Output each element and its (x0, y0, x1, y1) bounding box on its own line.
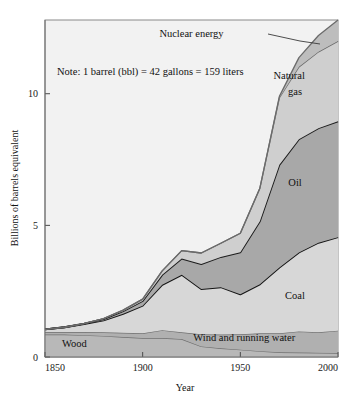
stacked-area-chart: 1850190019502000 0510 Year Billions of b… (0, 0, 359, 402)
y-tick-label: 0 (33, 352, 38, 363)
band-label-natural-gas-2: gas (288, 86, 302, 97)
x-axis-title: Year (176, 382, 195, 393)
y-axis-title: Billions of barrels equivalent (9, 130, 20, 247)
band-label-wind-and-running-water: Wind and running water (193, 332, 295, 343)
y-tick-label: 10 (28, 88, 38, 99)
band-label-coal: Coal (285, 290, 305, 301)
note-text: Note: 1 barrel (bbl) = 42 gallons = 159 … (57, 66, 244, 78)
band-label-oil: Oil (288, 177, 302, 188)
band-label-natural-gas: Natural (273, 70, 305, 81)
x-tick-label: 1900 (133, 362, 153, 373)
y-tick-label: 5 (33, 220, 38, 231)
x-tick-label: 1950 (230, 362, 250, 373)
x-tick-label: 1850 (45, 362, 65, 373)
x-tick-label: 2000 (318, 362, 338, 373)
band-label-wood: Wood (62, 338, 88, 349)
band-label-nuclear-energy: Nuclear energy (159, 28, 224, 39)
energy-consumption-figure: 1850190019502000 0510 Year Billions of b… (0, 0, 359, 402)
